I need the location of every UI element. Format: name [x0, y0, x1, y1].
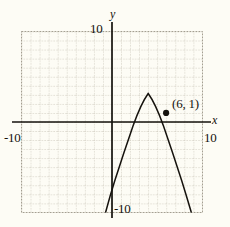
point-annotation-label: (6, 1)	[172, 97, 199, 110]
x-axis-tick-label-left: -10	[4, 131, 20, 144]
graph-figure: y x 10 -10 10 -10 (6, 1)	[0, 0, 230, 227]
y-axis-label: y	[110, 8, 115, 20]
x-axis-tick-label-right: 10	[204, 131, 216, 144]
x-axis-label: x	[212, 114, 217, 126]
y-axis-tick-label-top: 10	[90, 22, 102, 35]
point-marker	[163, 110, 169, 116]
y-axis-tick-label-bottom: -10	[114, 202, 130, 215]
coordinate-plane	[0, 0, 230, 227]
